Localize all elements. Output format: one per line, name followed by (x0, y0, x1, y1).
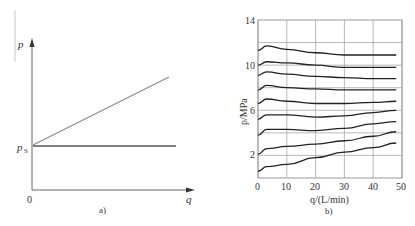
ps-label: p (16, 141, 23, 153)
b-y-axis-label: p/MPa (238, 98, 249, 125)
a-y-axis-label: p (17, 38, 24, 50)
b-y-tick-2: 2 (250, 149, 255, 160)
ps-subscript: S (24, 147, 28, 155)
b-y-tick-6: 6 (250, 105, 255, 116)
panel-b: 14 10 6 2 0 10 20 30 40 50 p/MPa q/(L/mi… (238, 15, 406, 216)
rising-line (33, 77, 169, 145)
b-curve-3 (258, 72, 396, 79)
b-y-tick-14: 14 (245, 15, 255, 26)
panel-b-caption: b) (325, 206, 333, 216)
b-curve-6 (258, 110, 396, 119)
figure: p q 0 p S a) 14 10 6 2 0 10 20 30 40 50 … (0, 0, 415, 226)
b-x-tick-10: 10 (281, 181, 291, 192)
panel-a: p q 0 p S a) (16, 38, 195, 215)
b-x-tick-20: 20 (310, 181, 320, 192)
b-x-tick-0: 0 (255, 181, 260, 192)
b-curve-1 (258, 46, 396, 55)
b-x-axis-label: q/(L/min) (310, 194, 349, 206)
panel-a-caption: a) (99, 205, 106, 215)
b-y-tick-10: 10 (245, 60, 255, 71)
b-x-tick-40: 40 (368, 181, 378, 192)
a-origin-label: 0 (27, 194, 32, 205)
x-axis-arrow-icon (186, 188, 195, 193)
b-curve-5 (258, 99, 396, 104)
b-x-tick-30: 30 (339, 181, 349, 192)
a-x-axis-label: q (186, 193, 192, 205)
b-curve-2 (258, 62, 396, 68)
b-curve-8 (258, 132, 396, 155)
b-x-tick-50: 50 (396, 181, 406, 192)
y-axis-arrow-icon (30, 38, 35, 47)
